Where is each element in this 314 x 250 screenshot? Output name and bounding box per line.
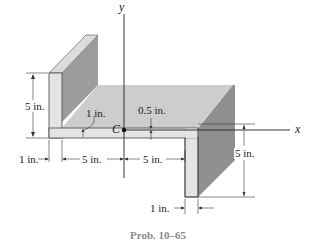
left-flange-height-label: 5 in. <box>25 101 45 112</box>
left-flange-thickness-label: 1 in. <box>19 154 39 165</box>
web-left-length-label: 5 in. <box>82 154 102 165</box>
right-flange-thickness-label: 1 in. <box>150 203 170 214</box>
web-thickness-label: 1 in. <box>86 108 106 119</box>
centroid-point <box>122 128 126 132</box>
centroid-label: C <box>112 123 120 135</box>
x-axis-label: x <box>295 123 300 135</box>
problem-caption: Prob. 10–65 <box>130 229 186 241</box>
web-right-length-label: 5 in. <box>143 154 163 165</box>
half-thickness-label: 0.5 in. <box>138 105 166 116</box>
y-axis-label: y <box>119 1 124 13</box>
right-flange-front-face <box>185 138 198 197</box>
right-flange-height-label: 5 in. <box>234 148 256 159</box>
